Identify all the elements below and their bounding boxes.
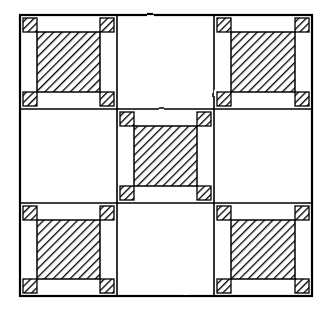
- cell-r2-c0-inner-hatched-square: [37, 220, 100, 279]
- cell-r1-c1-inner-hatched-square: [134, 126, 197, 186]
- cell-r1-c1-corner-bottom-right: [197, 186, 211, 200]
- cell-r0-c0-corner-top-right: [100, 18, 114, 32]
- cell-r2-c0-corner-top-left: [23, 206, 37, 220]
- cell-r0-c0-corner-bottom-left: [23, 92, 37, 106]
- cell-r1-c1-corner-bottom-left: [120, 186, 134, 200]
- cell-r0-c0-inner-hatched-square: [37, 32, 100, 92]
- cell-r2-c2-inner-hatched-square: [231, 220, 295, 279]
- cell-r1-c1-corner-top-right: [197, 112, 211, 126]
- diagram-canvas: [0, 0, 333, 315]
- cell-r0-c2-corner-bottom-right: [295, 92, 309, 106]
- cell-r0-c2-corner-top-right: [295, 18, 309, 32]
- cell-r2-c0-corner-top-right: [100, 206, 114, 220]
- cell-r2-c2-corner-bottom-right: [295, 279, 309, 293]
- cell-r2-c0-corner-bottom-left: [23, 279, 37, 293]
- cell-r2-c2-corner-top-right: [295, 206, 309, 220]
- cell-r0-c0-corner-top-left: [23, 18, 37, 32]
- cell-r0-c2-inner-hatched-square: [231, 32, 295, 92]
- cell-r0-c2-corner-bottom-left: [217, 92, 231, 106]
- cell-r0-c0-corner-bottom-right: [100, 92, 114, 106]
- cell-r2-c0-corner-bottom-right: [100, 279, 114, 293]
- cell-r2-c2-corner-top-left: [217, 206, 231, 220]
- cell-r1-c1-corner-top-left: [120, 112, 134, 126]
- cell-r2-c2-corner-bottom-left: [217, 279, 231, 293]
- hatched-grid-drawing: [0, 0, 333, 315]
- cell-r0-c2-corner-top-left: [217, 18, 231, 32]
